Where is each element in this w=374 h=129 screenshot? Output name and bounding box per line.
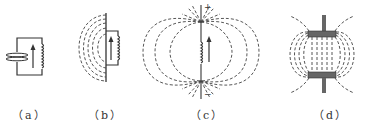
electric-field-lines: [79, 15, 106, 81]
capacitor-plates: [6, 53, 28, 61]
inductor-coil-icon: [118, 36, 120, 60]
panel-c-dipole-antenna: + −: [143, 2, 259, 99]
current-arrow-icon: [31, 44, 36, 68]
panel-b-open-capacitor: [79, 13, 120, 82]
minus-sign: −: [204, 89, 212, 99]
top-rod: [322, 15, 326, 31]
wire-bottom: [17, 62, 42, 75]
bottom-rod: [322, 78, 326, 93]
circuit-wire: [106, 31, 118, 65]
current-arrow-icon: [109, 36, 114, 60]
panel-d-parallel-plates: [290, 15, 354, 93]
panel-a-lc-circuit: [6, 38, 44, 75]
inductor-coil-icon: [42, 44, 44, 68]
current-arrow-icon: [207, 36, 212, 62]
plus-sign: +: [204, 2, 212, 12]
panel-label-c: （c）: [190, 106, 224, 122]
wire-top: [17, 38, 42, 52]
panel-label-a: （a）: [12, 106, 47, 122]
panel-label-d: （d）: [313, 106, 348, 122]
bottom-plate: [308, 72, 336, 78]
panel-label-b: （b）: [88, 106, 123, 122]
top-plate: [308, 31, 336, 37]
inductor-coil-icon: [201, 42, 203, 63]
